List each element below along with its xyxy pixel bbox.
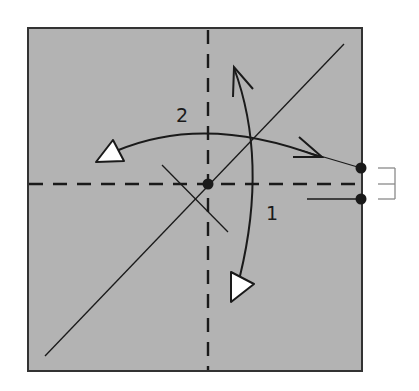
step-1-label: 1 (266, 202, 278, 224)
center-point (203, 179, 214, 190)
edge-point-lower (356, 194, 367, 205)
step-2-label: 2 (176, 104, 188, 126)
fold-diagram: 2 1 (0, 0, 419, 391)
edge-point-upper (356, 163, 367, 174)
equal-spacing-bracket (378, 168, 395, 199)
